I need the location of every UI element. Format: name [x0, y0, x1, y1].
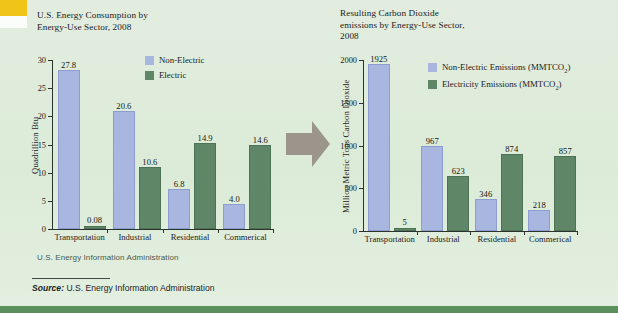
bar-group: 6.814.9	[164, 60, 219, 229]
chart-source-note: U.S. Energy Information Administration	[37, 253, 179, 262]
y-axis-tick	[359, 188, 363, 189]
x-axis-tick	[163, 229, 164, 233]
figure-page: U.S. Energy Consumption by Energy-Use Se…	[0, 0, 618, 313]
y-axis-tick-label: 15	[38, 140, 46, 149]
x-axis-category-labels: TransportationIndustrialResidentialComme…	[52, 230, 280, 244]
y-axis-tick	[359, 231, 363, 232]
bar-electric[interactable]: 0.08	[84, 226, 106, 229]
y-axis-tick-label: 5	[42, 196, 46, 205]
legend-swatch-electric-icon	[428, 80, 437, 89]
bar-non-electric[interactable]: 967	[421, 146, 443, 231]
legend-co2-emissions: Non-Electric Emissions (MMTCO2) Electric…	[428, 62, 570, 96]
bar-value-label: 967	[426, 136, 439, 146]
bar-value-label: 1925	[370, 54, 387, 64]
legend-item-non-electric-emissions: Non-Electric Emissions (MMTCO2)	[428, 62, 570, 74]
bar-value-label: 874	[505, 144, 518, 154]
chart-title-energy-consumption: U.S. Energy Consumption by Energy-Use Se…	[37, 10, 227, 33]
y-axis-tick	[359, 146, 363, 147]
bar-value-label: 857	[559, 146, 572, 156]
x-axis-category-label: Commerical	[224, 232, 266, 242]
source-label: Source:	[32, 283, 64, 293]
bar-non-electric[interactable]: 4.0	[223, 204, 245, 229]
chart-panel-energy-consumption: U.S. Energy Consumption by Energy-Use Se…	[0, 0, 300, 290]
x-axis-category-labels: TransportationIndustrialResidentialComme…	[363, 232, 584, 246]
bar-non-electric[interactable]: 1925	[368, 64, 390, 231]
chart-title-line-3: 2008	[340, 31, 359, 41]
bar-electric[interactable]: 14.9	[194, 143, 216, 229]
y-axis-tick	[48, 173, 52, 174]
bar-electric[interactable]: 5	[394, 228, 416, 231]
legend-label-electricity-emissions: Electricity Emissions (MMTCO2)	[442, 79, 562, 91]
bar-group: 19255	[364, 60, 418, 231]
x-axis-tick	[470, 231, 471, 235]
chart-panel-co2-emissions: Resulting Carbon Dioxide emissions by En…	[318, 0, 618, 290]
bar-group: 4.014.6	[219, 60, 274, 229]
legend-item-electricity-emissions: Electricity Emissions (MMTCO2)	[428, 79, 570, 91]
y-axis-tick	[48, 229, 52, 230]
x-axis-category-label: Residential	[171, 232, 210, 242]
bar-value-label: 14.9	[198, 133, 213, 143]
y-axis-tick-label: 0	[42, 225, 46, 234]
bar-electric[interactable]: 10.6	[139, 167, 161, 229]
y-axis-tick-label: 1000	[340, 141, 357, 150]
x-axis-tick	[417, 231, 418, 235]
bar-value-label: 6.8	[174, 179, 185, 189]
figure-source-line: Source: U.S. Energy Information Administ…	[32, 283, 214, 293]
y-axis-tick-label: 1500	[340, 98, 357, 107]
y-axis-tick-label: 25	[38, 84, 46, 93]
x-axis-category-label: Industrial	[118, 232, 151, 242]
chart-title-line-2: Energy-Use Sector, 2008	[37, 22, 131, 32]
y-axis-tick	[48, 60, 52, 61]
x-axis-category-label: Residential	[477, 234, 516, 244]
bar-non-electric[interactable]: 20.6	[113, 111, 135, 229]
x-axis-tick	[218, 229, 219, 233]
y-axis-tick-label: 20	[38, 112, 46, 121]
x-axis-category-label: Commerical	[529, 234, 571, 244]
bar-value-label: 218	[533, 200, 546, 210]
bar-non-electric[interactable]: 218	[528, 210, 550, 231]
y-axis-tick-label: 10	[38, 168, 46, 177]
bar-non-electric[interactable]: 27.8	[58, 70, 80, 229]
x-axis-category-label: Transportation	[54, 232, 104, 242]
source-value: U.S. Energy Information Administration	[64, 283, 214, 293]
y-axis-tick-label: 2000	[340, 56, 357, 65]
x-axis-tick	[524, 231, 525, 235]
bar-value-label: 20.6	[116, 101, 131, 111]
plot-area-energy-consumption: Quadrillion Btu 27.80.0820.610.66.814.94…	[52, 60, 274, 230]
bar-value-label: 346	[479, 189, 492, 199]
chart-title-co2-emissions: Resulting Carbon Dioxide emissions by En…	[340, 8, 540, 43]
bar-value-label: 27.8	[61, 60, 76, 70]
x-axis-category-label: Industrial	[427, 234, 460, 244]
y-axis-tick	[359, 103, 363, 104]
bar-value-label: 0.08	[87, 215, 102, 225]
x-axis-tick	[107, 229, 108, 233]
x-axis-category-label: Transportation	[365, 234, 415, 244]
y-axis-tick-label: 0	[353, 227, 357, 236]
bar-group: 27.80.08	[53, 60, 108, 229]
x-axis-tick	[577, 231, 578, 235]
chart-title-line-1: Resulting Carbon Dioxide	[340, 8, 439, 18]
bottom-green-rule	[0, 306, 618, 313]
bar-value-label: 623	[452, 166, 465, 176]
y-axis-tick	[48, 88, 52, 89]
bar-value-label: 14.6	[253, 135, 268, 145]
legend-label-non-electric-emissions: Non-Electric Emissions (MMTCO2)	[442, 62, 570, 74]
y-axis-tick-label: 500	[344, 184, 357, 193]
bar-group: 20.610.6	[108, 60, 163, 229]
bar-non-electric[interactable]: 6.8	[168, 189, 190, 229]
bar-electric[interactable]: 14.6	[249, 145, 271, 229]
legend-swatch-non-electric-icon	[428, 63, 437, 72]
bar-electric[interactable]: 623	[447, 176, 469, 231]
bar-value-label: 5	[403, 217, 407, 227]
chart-title-line-2: emissions by Energy-Use Sector,	[340, 20, 465, 30]
source-divider	[32, 278, 110, 279]
bar-value-label: 4.0	[229, 194, 240, 204]
bar-series-container: 27.80.0820.610.66.814.94.014.6	[53, 60, 274, 229]
y-axis-tick	[48, 145, 52, 146]
bar-electric[interactable]: 857	[554, 156, 576, 231]
y-axis-tick	[48, 116, 52, 117]
chart-title-line-1: U.S. Energy Consumption by	[37, 10, 148, 20]
bar-electric[interactable]: 874	[501, 154, 523, 231]
y-axis-tick	[359, 60, 363, 61]
bar-non-electric[interactable]: 346	[475, 199, 497, 231]
